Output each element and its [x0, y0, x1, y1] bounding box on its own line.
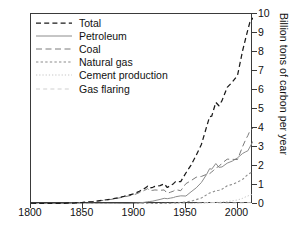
y-tick-mark	[252, 89, 257, 90]
y-tick-label: 8	[258, 46, 264, 57]
series-line	[31, 128, 253, 204]
legend-item: Coal	[36, 42, 186, 55]
y-tick-label: 0	[258, 198, 264, 209]
legend-item: Cement production	[36, 69, 186, 82]
x-tick-label: 2000	[225, 207, 248, 218]
series-line	[31, 141, 253, 204]
legend-line-swatch	[36, 83, 72, 95]
y-tick-mark	[252, 13, 257, 14]
y-tick-label: 1	[258, 179, 264, 190]
legend-item-label: Total	[79, 17, 101, 29]
y-tick-label: 10	[258, 8, 270, 19]
legend-item-label: Cement production	[79, 69, 168, 81]
legend-line-swatch	[36, 17, 72, 29]
legend-item: Natural gas	[36, 56, 186, 69]
legend-item-label: Coal	[79, 43, 101, 55]
y-tick-mark	[252, 51, 257, 52]
legend-item-label: Natural gas	[79, 56, 133, 68]
y-tick-mark	[252, 203, 257, 204]
y-tick-mark	[252, 127, 257, 128]
y-tick-label: 7	[258, 65, 264, 76]
y-tick-label: 5	[258, 103, 264, 114]
y-tick-mark	[252, 108, 257, 109]
legend-item: Gas flaring	[36, 82, 186, 95]
y-tick-label: 6	[258, 84, 264, 95]
chart-figure: 012345678910 18001850190019502000 Billio…	[0, 0, 305, 236]
legend-item: Petroleum	[36, 29, 186, 42]
y-tick-mark	[252, 32, 257, 33]
legend-line-swatch	[36, 56, 72, 68]
x-tick-label: 1900	[122, 207, 145, 218]
y-tick-label: 4	[258, 122, 264, 133]
chart-legend: TotalPetroleumCoalNatural gasCement prod…	[36, 16, 186, 95]
x-tick-label: 1800	[18, 207, 41, 218]
y-tick-label: 3	[258, 141, 264, 152]
series-line	[31, 172, 253, 204]
x-tick-label: 1950	[173, 207, 196, 218]
y-tick-label: 2	[258, 160, 264, 171]
legend-item-label: Petroleum	[79, 30, 127, 42]
legend-item-label: Gas flaring	[79, 83, 130, 95]
y-tick-mark	[252, 184, 257, 185]
legend-item: Total	[36, 16, 186, 29]
y-tick-mark	[252, 146, 257, 147]
y-axis-title: Billion tons of carbon per year	[274, 13, 290, 203]
x-tick-label: 1850	[70, 207, 93, 218]
y-tick-label: 9	[258, 27, 264, 38]
y-tick-mark	[252, 165, 257, 166]
legend-line-swatch	[36, 43, 72, 55]
legend-line-swatch	[36, 30, 72, 42]
y-tick-mark	[252, 70, 257, 71]
legend-line-swatch	[36, 69, 72, 81]
